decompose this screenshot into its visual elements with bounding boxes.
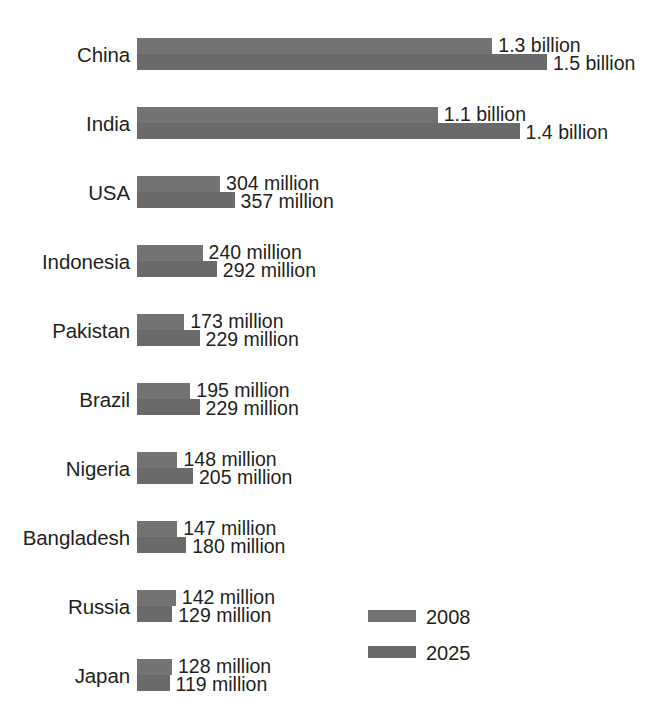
country-label: Russia [0, 597, 130, 618]
legend-swatch [368, 646, 416, 658]
country-label: Pakistan [0, 321, 130, 342]
value-label-2008: 1.1 billion [444, 105, 526, 125]
value-label-2025: 357 million [241, 192, 334, 212]
chart-row: India1.1 billion1.4 billion [0, 107, 661, 141]
country-label: Nigeria [0, 459, 130, 480]
bar-2008 [137, 383, 190, 399]
legend-label: 2025 [426, 640, 471, 666]
bar-2025 [137, 468, 193, 484]
bar-2025 [137, 330, 200, 346]
value-label-2025: 119 million [176, 675, 268, 695]
bar-2025 [137, 54, 547, 70]
country-label: Brazil [0, 390, 130, 411]
country-label: Bangladesh [0, 528, 130, 549]
chart-row: Indonesia240 million292 million [0, 245, 661, 279]
value-label-2025: 229 million [206, 330, 299, 350]
value-label-2025: 292 million [223, 261, 316, 281]
chart-row: Nigeria148 million205 million [0, 452, 661, 486]
bar-2008 [137, 245, 203, 261]
country-label: China [0, 45, 130, 66]
value-label-2025: 1.4 billion [526, 123, 608, 143]
chart-row: Pakistan173 million229 million [0, 314, 661, 348]
bar-2008 [137, 521, 177, 537]
country-label: USA [0, 183, 130, 204]
bar-2008 [137, 659, 172, 675]
legend-item: 2025 [368, 640, 558, 666]
bar-2025 [137, 675, 170, 691]
bar-2008 [137, 314, 184, 330]
value-label-2025: 229 million [206, 399, 299, 419]
chart-row: China1.3 billion1.5 billion [0, 38, 661, 72]
value-label-2025: 205 million [199, 468, 292, 488]
chart-legend: 20082025 [368, 604, 558, 674]
bar-2025 [137, 399, 200, 415]
chart-row: USA304 million357 million [0, 176, 661, 210]
chart-row: Japan128 million119 million [0, 659, 661, 693]
bar-2025 [137, 606, 172, 622]
bar-2025 [137, 537, 186, 553]
bar-2008 [137, 176, 220, 192]
country-label: India [0, 114, 130, 135]
legend-swatch [368, 610, 416, 622]
chart-row: Bangladesh147 million180 million [0, 521, 661, 555]
bar-2008 [137, 452, 177, 468]
legend-label: 2008 [426, 604, 471, 630]
bar-2025 [137, 192, 235, 208]
value-label-2025: 180 million [192, 537, 285, 557]
country-label: Japan [0, 666, 130, 687]
bar-2008 [137, 590, 176, 606]
bar-2008 [137, 38, 492, 54]
population-bar-chart: China1.3 billion1.5 billionIndia1.1 bill… [0, 0, 661, 714]
value-label-2025: 129 million [178, 606, 271, 626]
bar-2008 [137, 107, 438, 123]
country-label: Indonesia [0, 252, 130, 273]
bar-2025 [137, 123, 520, 139]
chart-row: Russia142 million129 million [0, 590, 661, 624]
legend-item: 2008 [368, 604, 558, 630]
chart-row: Brazil195 million229 million [0, 383, 661, 417]
value-label-2025: 1.5 billion [553, 54, 635, 74]
bar-2025 [137, 261, 217, 277]
